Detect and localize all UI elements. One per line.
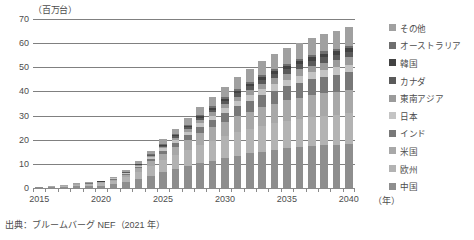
bar-slot — [194, 19, 206, 188]
bar-segment — [345, 57, 353, 64]
stacked-bar[interactable] — [184, 118, 192, 188]
x-tick-mark — [157, 188, 158, 192]
bar-segment — [147, 166, 155, 176]
legend-item[interactable]: 欧州 — [389, 160, 474, 178]
bar-segment — [283, 100, 291, 121]
source-caption: 出典：ブルームバーグ NEF（2021 年） — [5, 218, 165, 231]
bar-segment — [271, 54, 279, 69]
bar-slot — [281, 19, 293, 188]
bar-segment — [172, 169, 180, 188]
legend-swatch-icon — [389, 59, 396, 66]
legend-item[interactable]: 韓国 — [389, 54, 474, 72]
bar-segment — [308, 146, 316, 188]
bar-slot — [58, 19, 70, 188]
x-tick-mark — [58, 188, 59, 192]
stacked-bar[interactable] — [159, 139, 167, 188]
y-axis-tick-label: 40 — [19, 86, 29, 96]
bar-slot — [231, 19, 243, 188]
x-tick-slot — [95, 188, 107, 193]
stacked-bar[interactable] — [221, 87, 229, 188]
bar-segment — [196, 107, 204, 115]
x-axis-tick-label: 2025 — [153, 194, 173, 204]
bar-segment — [234, 132, 242, 155]
x-tick-mark — [33, 188, 34, 192]
x-tick-slot — [58, 188, 70, 193]
stacked-bar[interactable] — [296, 43, 304, 188]
x-tick-slot — [157, 188, 169, 193]
bar-segment — [308, 66, 316, 73]
bar-segment — [333, 92, 341, 115]
bar-slot — [95, 19, 107, 188]
stacked-bar[interactable] — [246, 69, 254, 188]
legend-item[interactable]: 日本 — [389, 107, 474, 125]
bar-segment — [345, 65, 353, 72]
x-tick-mark — [219, 188, 220, 192]
bar-segment — [258, 107, 266, 126]
y-axis-tick-label: 10 — [19, 159, 29, 169]
bar-segment — [320, 34, 328, 52]
x-tick-slot — [330, 188, 342, 193]
x-tick-slot — [318, 188, 330, 193]
stacked-bar[interactable] — [234, 77, 242, 188]
legend-item[interactable]: カナダ — [389, 72, 474, 90]
legend-swatch-icon — [389, 24, 396, 31]
legend-item[interactable]: インド — [389, 125, 474, 143]
bar-segment — [258, 95, 266, 107]
legend-swatch-icon — [389, 95, 396, 102]
stacked-bar[interactable] — [271, 54, 279, 188]
bar-segment — [147, 176, 155, 188]
x-tick-mark — [318, 188, 319, 192]
bar-segment — [258, 61, 266, 75]
x-tick-slot — [120, 188, 132, 193]
bar-segment — [271, 123, 279, 150]
x-tick-slot — [132, 188, 144, 193]
y-axis-tick-label: 70 — [19, 14, 29, 24]
bar-segment — [345, 27, 353, 46]
x-tick-mark — [293, 188, 294, 192]
bar-segment — [320, 145, 328, 188]
stacked-bar[interactable] — [283, 48, 291, 188]
legend-item[interactable]: 米国 — [389, 142, 474, 160]
bar-slot — [268, 19, 280, 188]
stacked-bar[interactable] — [333, 31, 341, 188]
stacked-bar[interactable] — [97, 181, 105, 188]
stacked-bar[interactable] — [196, 107, 204, 188]
bar-slot — [132, 19, 144, 188]
bar-segment — [209, 120, 217, 127]
stacked-bar[interactable] — [110, 177, 118, 189]
stacked-bar[interactable] — [345, 27, 353, 188]
bar-segment — [172, 147, 180, 155]
bar-segment — [184, 140, 192, 150]
x-tick-slot — [281, 188, 293, 193]
legend-item[interactable]: オーストラリア — [389, 37, 474, 55]
bar-segment — [196, 133, 204, 145]
legend-label: オーストラリア — [400, 39, 461, 51]
stacked-bar[interactable] — [135, 161, 143, 188]
bar-slot — [318, 19, 330, 188]
legend-item[interactable]: 中国 — [389, 177, 474, 195]
stacked-bar[interactable] — [172, 129, 180, 188]
legend-swatch-icon — [389, 147, 396, 154]
bar-segment — [196, 145, 204, 163]
bar-segment — [333, 145, 341, 188]
bar-segment — [320, 93, 328, 115]
stacked-bar[interactable] — [308, 38, 316, 188]
x-tick-slot — [244, 188, 256, 193]
legend-label: 米国 — [400, 145, 417, 157]
stacked-bar[interactable] — [209, 97, 217, 188]
x-axis-ticks — [33, 188, 355, 193]
bar-slot — [45, 19, 57, 188]
bar-slot — [70, 19, 82, 188]
x-tick-mark — [330, 188, 331, 192]
stacked-bar[interactable] — [320, 34, 328, 188]
stacked-bar[interactable] — [122, 170, 130, 188]
y-axis-tick-label: 0 — [24, 183, 29, 193]
stacked-bar[interactable] — [147, 151, 155, 188]
legend-label: 欧州 — [400, 163, 417, 175]
bar-slot — [343, 19, 355, 188]
legend-item[interactable]: その他 — [389, 19, 474, 37]
legend-item[interactable]: 東南アジア — [389, 89, 474, 107]
stacked-bar[interactable] — [258, 61, 266, 188]
bar-segment — [209, 141, 217, 161]
x-tick-mark — [83, 188, 84, 192]
